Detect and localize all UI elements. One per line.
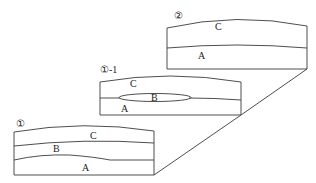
panel-2: ② C A <box>167 10 307 69</box>
panel-1-1-title: ①-1 <box>100 64 117 75</box>
panel-1-layer-c: C <box>90 130 97 141</box>
panel-1-title: ① <box>16 118 25 129</box>
panel-1-1: ①-1 C B A <box>100 64 241 115</box>
panel-1: ① C B A <box>14 118 154 175</box>
panel-2-layer-a: A <box>198 50 206 61</box>
panel-1-boundary-b-a <box>14 155 154 160</box>
connector-line <box>154 69 307 175</box>
panel-1-boundary-c-b <box>14 141 154 146</box>
panel-1-1-layer-c: C <box>130 78 137 89</box>
panel-1-1-layer-b: B <box>151 92 158 103</box>
panel-1-layer-a: A <box>82 162 90 173</box>
panel-2-layer-c: C <box>215 21 222 32</box>
panel-1-1-layer-a: A <box>121 103 129 114</box>
diagram-canvas: ② C A ①-1 C B A ① C B A <box>0 0 316 183</box>
panel-2-title: ② <box>174 10 183 21</box>
panel-1-layer-b: B <box>53 143 60 154</box>
panel-1-1-boundary-right <box>189 98 241 100</box>
panel-2-boundary-c-a <box>167 45 307 48</box>
panel-2-outline <box>167 19 307 69</box>
